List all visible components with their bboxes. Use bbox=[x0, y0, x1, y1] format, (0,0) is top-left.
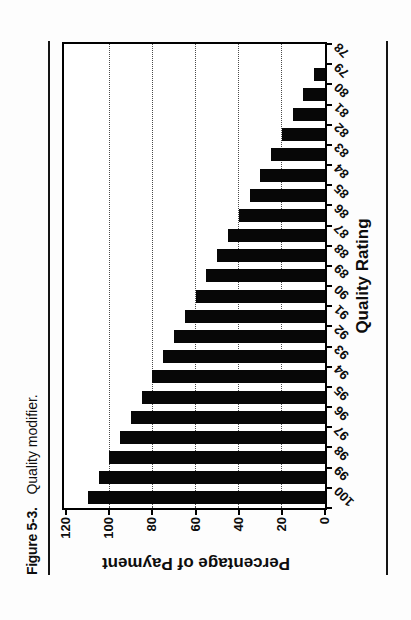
x-tick-label-text-78: 78 bbox=[331, 39, 352, 60]
x-tick-mark-21 bbox=[327, 83, 332, 85]
bar-79 bbox=[314, 68, 325, 81]
bar-90 bbox=[196, 290, 325, 303]
x-tick-label-text-95: 95 bbox=[331, 382, 352, 403]
x-tick-mark-6 bbox=[327, 386, 332, 388]
x-tick-label-text-90: 90 bbox=[331, 282, 352, 303]
y-tick-label-40: 40 bbox=[232, 517, 246, 561]
bar-94 bbox=[152, 370, 325, 383]
bar-98 bbox=[109, 451, 325, 464]
y-tick-mark-40 bbox=[238, 510, 240, 515]
y-tick-label-120: 120 bbox=[59, 517, 73, 561]
bar-82 bbox=[282, 128, 325, 141]
x-tick-mark-14 bbox=[327, 225, 332, 227]
bar-89 bbox=[206, 270, 325, 283]
x-tick-mark-7 bbox=[327, 366, 332, 368]
x-tick-mark-9 bbox=[327, 325, 332, 327]
x-tick-mark-19 bbox=[327, 124, 332, 126]
x-axis-title: Quality Rating bbox=[353, 218, 373, 333]
bar-87 bbox=[228, 229, 325, 242]
x-tick-mark-8 bbox=[327, 346, 332, 348]
y-tick-label-60: 60 bbox=[189, 517, 203, 561]
bar-96 bbox=[131, 411, 325, 424]
figure-caption: Quality modifier. bbox=[24, 394, 40, 494]
figure-label: Figure 5-3. bbox=[24, 508, 40, 576]
y-tick-label-20: 20 bbox=[275, 517, 289, 561]
y-tick-mark-20 bbox=[281, 510, 283, 515]
rotated-figure: Figure 5-3. Quality modifier. Percentage… bbox=[0, 0, 411, 620]
book-page: Figure 5-3. Quality modifier. Percentage… bbox=[0, 0, 411, 620]
x-tick-label-text-96: 96 bbox=[331, 403, 352, 424]
bar-99 bbox=[99, 471, 325, 484]
x-tick-label-text-86: 86 bbox=[331, 201, 352, 222]
x-tick-mark-15 bbox=[327, 204, 332, 206]
x-tick-mark-22 bbox=[327, 63, 332, 65]
y-tick-label-100: 100 bbox=[102, 517, 116, 561]
y-tick-label-0: 0 bbox=[318, 517, 332, 561]
y-tick-mark-0 bbox=[324, 510, 326, 515]
bar-88 bbox=[217, 249, 325, 262]
x-tick-label-text-83: 83 bbox=[331, 140, 352, 161]
x-tick-label-text-87: 87 bbox=[331, 221, 352, 242]
x-tick-label-text-97: 97 bbox=[331, 423, 352, 444]
bar-85 bbox=[250, 189, 325, 202]
x-tick-mark-11 bbox=[327, 285, 332, 287]
x-tick-mark-12 bbox=[327, 265, 332, 267]
bar-80 bbox=[303, 88, 325, 101]
x-tick-label-text-80: 80 bbox=[331, 80, 352, 101]
x-tick-label-text-82: 82 bbox=[331, 120, 352, 141]
x-tick-mark-0 bbox=[327, 507, 332, 509]
x-tick-label-text-88: 88 bbox=[331, 241, 352, 262]
x-tick-mark-5 bbox=[327, 406, 332, 408]
x-tick-label-text-81: 81 bbox=[331, 100, 352, 121]
bottom-rule bbox=[386, 41, 388, 575]
x-tick-mark-1 bbox=[327, 487, 332, 489]
x-tick-label-text-79: 79 bbox=[331, 60, 352, 81]
x-tick-label-text-99: 99 bbox=[331, 463, 352, 484]
x-tick-mark-18 bbox=[327, 144, 332, 146]
x-tick-label-text-84: 84 bbox=[331, 161, 352, 182]
bar-83 bbox=[271, 148, 325, 161]
bar-84 bbox=[260, 169, 325, 182]
x-tick-label-text-93: 93 bbox=[331, 342, 352, 363]
x-tick-mark-2 bbox=[327, 467, 332, 469]
bar-81 bbox=[293, 108, 325, 121]
x-tick-mark-4 bbox=[327, 426, 332, 428]
bar-92 bbox=[174, 330, 325, 343]
bar-91 bbox=[185, 310, 325, 323]
x-tick-mark-20 bbox=[327, 104, 332, 106]
bar-95 bbox=[142, 391, 325, 404]
x-tick-label-text-100: 100 bbox=[331, 483, 357, 509]
plot-area bbox=[62, 42, 327, 510]
bar-100 bbox=[88, 491, 325, 504]
bar-93 bbox=[163, 350, 325, 363]
top-rule bbox=[48, 41, 50, 575]
x-tick-mark-16 bbox=[327, 184, 332, 186]
y-tick-mark-120 bbox=[65, 510, 67, 515]
y-tick-mark-100 bbox=[108, 510, 110, 515]
x-tick-label-text-94: 94 bbox=[331, 362, 352, 383]
x-tick-label-text-91: 91 bbox=[331, 302, 352, 323]
y-tick-mark-60 bbox=[195, 510, 197, 515]
x-tick-mark-13 bbox=[327, 245, 332, 247]
x-tick-label-text-89: 89 bbox=[331, 261, 352, 282]
bar-97 bbox=[120, 431, 325, 444]
x-tick-mark-23 bbox=[327, 43, 332, 45]
gridline-100 bbox=[109, 44, 110, 508]
x-tick-label-text-85: 85 bbox=[331, 181, 352, 202]
x-tick-mark-10 bbox=[327, 305, 332, 307]
bar-86 bbox=[239, 209, 325, 222]
figure-caption-row: Figure 5-3. Quality modifier. bbox=[24, 394, 40, 575]
y-tick-mark-80 bbox=[151, 510, 153, 515]
y-tick-label-80: 80 bbox=[145, 517, 159, 561]
x-tick-label-text-98: 98 bbox=[331, 443, 352, 464]
x-tick-mark-17 bbox=[327, 164, 332, 166]
x-tick-mark-3 bbox=[327, 446, 332, 448]
x-tick-label-text-92: 92 bbox=[331, 322, 352, 343]
